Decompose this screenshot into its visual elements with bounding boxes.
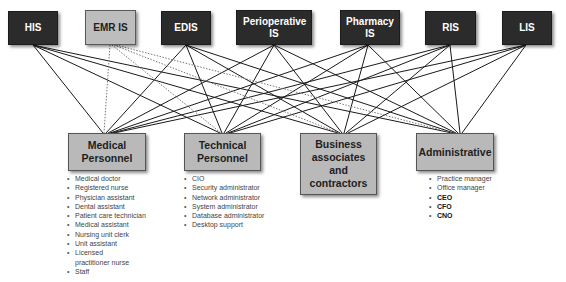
role-technical-personnel: Technical Personnel xyxy=(184,133,261,171)
list-item: System administrator xyxy=(183,202,283,211)
technical-personnel-list: CIO Security administrator Network admin… xyxy=(183,174,283,230)
medical-personnel-list: Medical doctor Registered nurse Physicia… xyxy=(66,174,146,276)
list-item: Office manager xyxy=(428,183,518,192)
system-label: Pharmacy IS xyxy=(344,16,396,40)
system-his: HIS xyxy=(8,11,58,45)
list-item: Patient care technician xyxy=(66,211,146,220)
list-item: Network administrator xyxy=(183,193,283,202)
list-item: Registered nurse xyxy=(66,183,146,192)
system-label: Perioperative IS xyxy=(243,16,305,40)
list-item: Desktop support xyxy=(183,220,283,229)
list-item: CNO xyxy=(428,211,518,220)
list-item: CIO xyxy=(183,174,283,183)
system-pharmacy-is: Pharmacy IS xyxy=(340,10,400,45)
list-item: Medical assistant xyxy=(66,220,146,229)
administrative-list: Practice manager Office manager CEO CFO … xyxy=(428,174,518,220)
list-item: Medical doctor xyxy=(66,174,146,183)
system-lis: LIS xyxy=(502,11,552,45)
role-label: Business associates and contractors xyxy=(306,138,372,190)
list-item: Dental assistant xyxy=(66,202,146,211)
list-item: CFO xyxy=(428,202,518,211)
list-item: CEO xyxy=(428,193,518,202)
system-label: RIS xyxy=(442,22,459,34)
system-emr-is: EMR IS xyxy=(85,10,136,45)
system-label: EDIS xyxy=(174,22,197,34)
list-item: Unit assistant xyxy=(66,239,146,248)
list-item: Security administrator xyxy=(183,183,283,192)
role-label: Medical Personnel xyxy=(76,139,138,165)
role-label: Administrative xyxy=(419,146,492,159)
system-label: EMR IS xyxy=(93,22,127,34)
role-business-associates: Business associates and contractors xyxy=(300,133,377,195)
list-item: Physician assistant xyxy=(66,193,146,202)
role-label: Technical Personnel xyxy=(192,139,254,165)
system-edis: EDIS xyxy=(161,11,211,45)
system-label: HIS xyxy=(25,22,42,34)
list-item: Practice manager xyxy=(428,174,518,183)
role-medical-personnel: Medical Personnel xyxy=(68,133,146,171)
list-item: Licensed practitioner nurse xyxy=(66,248,139,267)
system-perioperative-is: Perioperative IS xyxy=(236,10,312,45)
system-ris: RIS xyxy=(425,11,476,45)
role-administrative: Administrative xyxy=(416,133,494,171)
system-label: LIS xyxy=(519,22,535,34)
list-item: Nursing unit clerk xyxy=(66,230,146,239)
list-item: Database administrator xyxy=(183,211,283,220)
list-item: Staff xyxy=(66,267,146,276)
